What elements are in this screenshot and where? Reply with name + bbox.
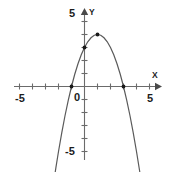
y-tick-label-bottom: -5 [65,145,75,157]
chart-canvas: Y X 5 -5 -5 5 0 [0,0,169,172]
x-axis-arrowhead [155,83,162,90]
x-tick-label-right: 5 [147,92,153,104]
parabola-chart: Y X 5 -5 -5 5 0 [0,0,169,172]
x-tick-label-left: -5 [15,92,25,104]
y-tick-label-top: 5 [69,7,75,19]
y-axis-label: Y [89,7,95,17]
origin-label: 0 [74,91,80,103]
point-x-intercept-left [70,85,74,89]
y-axis-arrowhead [81,8,88,15]
x-axis-label: X [152,70,158,80]
point-y-intercept [83,46,87,50]
point-vertex [96,33,100,37]
point-x-intercept-right [122,85,126,89]
